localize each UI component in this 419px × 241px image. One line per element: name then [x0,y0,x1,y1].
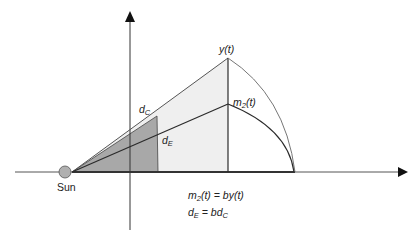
vertical-axis-arrow-icon [125,11,135,22]
sun-icon [59,166,71,178]
m2-rest: (t) [246,96,256,108]
diagram-canvas [0,0,419,241]
de-label: dE [162,135,173,148]
equation-line-2: dE = bdC [188,207,228,220]
sun-label: Sun [57,182,76,193]
eq1-rest: (t) = by(t) [201,189,244,201]
dark-shaded-triangle [72,116,158,172]
dc-sub: C [145,108,150,117]
eq1-base: m [188,189,197,201]
m2-t-label: m2(t) [233,97,256,110]
horizontal-axis-arrow-icon [398,167,408,177]
outer-arc [228,58,295,172]
equation-line-1: m2(t) = by(t) [188,190,244,203]
eq2-mid: = bd [199,206,223,218]
y-t-label: y(t) [219,44,234,55]
de-sub: E [168,139,173,148]
eq2-rhs-sub: C [223,211,228,220]
inner-arc [228,104,294,172]
m2-base: m [233,96,242,108]
dc-label: dC [139,104,150,117]
